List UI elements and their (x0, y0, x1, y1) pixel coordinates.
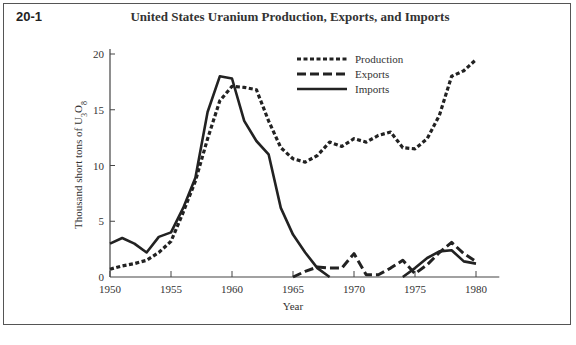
x-axis-label: Year (283, 300, 304, 312)
series-imports-line (110, 76, 330, 277)
legend-label-production: Production (355, 53, 404, 65)
x-tick-label: 1970 (343, 283, 366, 295)
y-tick-label: 20 (93, 48, 105, 60)
series-production-line (110, 60, 476, 270)
y-tick-label: 5 (99, 215, 105, 227)
x-tick-label: 1975 (404, 283, 427, 295)
legend: ProductionExportsImports (297, 53, 404, 95)
y-tick-label: 10 (93, 160, 105, 172)
y-tick-label: 0 (99, 271, 105, 283)
x-tick-label: 1980 (465, 283, 488, 295)
x-tick-label: 1955 (160, 283, 183, 295)
x-tick-label: 1960 (221, 283, 244, 295)
x-tick-label: 1950 (99, 283, 122, 295)
y-tick-label: 15 (93, 104, 105, 116)
x-tick-label: 1965 (282, 283, 305, 295)
chart-area: 051015201950195519601965197019751980 Pro… (0, 0, 576, 345)
legend-label-exports: Exports (355, 68, 389, 80)
legend-label-imports: Imports (355, 83, 389, 95)
y-axis-label: Thousand short tons of U3O8 (72, 101, 89, 229)
axes: 051015201950195519601965197019751980 (93, 48, 499, 295)
series-layer (110, 60, 476, 277)
